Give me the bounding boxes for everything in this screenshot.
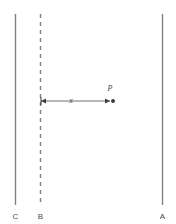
physics-diagram-canvas: x P C B A bbox=[0, 0, 176, 224]
diagram-svg: x P C B A bbox=[0, 0, 176, 224]
point-p-marker bbox=[111, 99, 115, 103]
line-label-b: B bbox=[38, 212, 43, 221]
dimension-arrowhead-right bbox=[105, 99, 110, 104]
point-label-p: P bbox=[107, 84, 113, 93]
dimension-arrowhead-left bbox=[41, 99, 46, 104]
dimension-label-x: x bbox=[68, 96, 73, 105]
line-label-c: C bbox=[13, 212, 19, 221]
line-label-a: A bbox=[160, 212, 166, 221]
